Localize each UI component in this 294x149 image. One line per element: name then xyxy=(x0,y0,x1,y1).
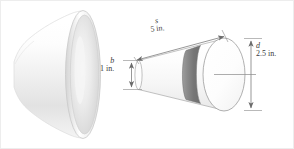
frustum-small-face xyxy=(135,60,142,89)
figure-drawing xyxy=(0,0,294,149)
figure-container: s 5 in. b 1 in. d 2.5 in. xyxy=(0,0,294,149)
horn-highlight xyxy=(75,36,86,104)
